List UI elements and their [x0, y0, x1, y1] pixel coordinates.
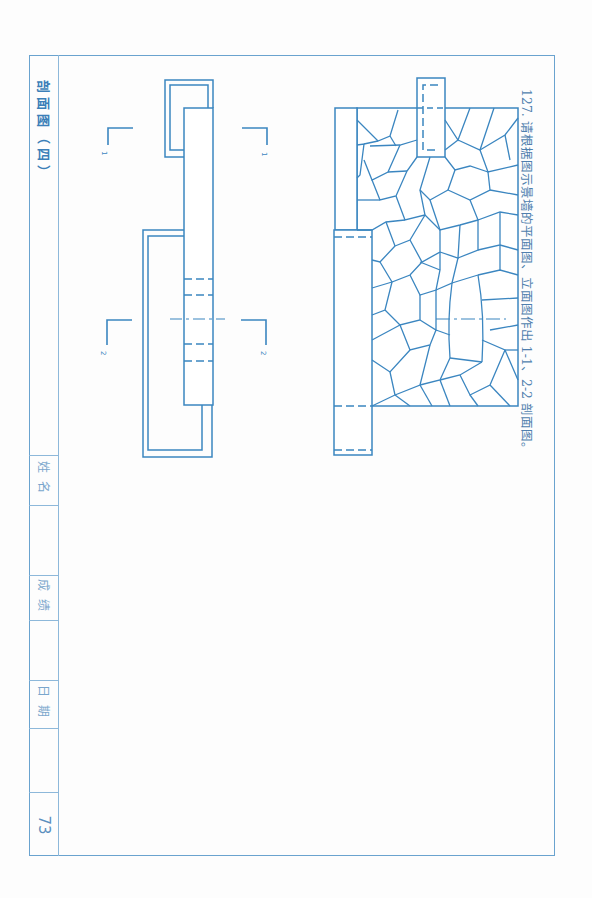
section-2-label-left: 2 — [99, 351, 107, 355]
worksheet-page: 剖面图（四） 姓名 成绩 日期 73 127. 请根据图示景墙的平面图、立面图作… — [0, 0, 592, 898]
section-2-label-right: 2 — [259, 351, 267, 355]
section-1-label-right: 1 — [260, 152, 268, 156]
elevation-drawing — [334, 78, 518, 455]
drawing-canvas: 1 1 2 2 — [0, 0, 592, 898]
section-1-label-left: 1 — [100, 151, 108, 155]
plan-drawing — [107, 80, 267, 457]
